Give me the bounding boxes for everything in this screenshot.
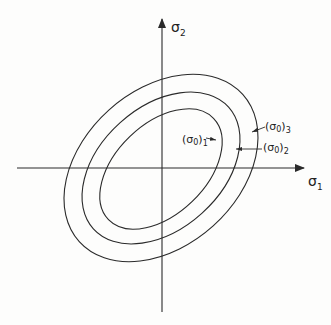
yield-surface-diagram: σ2 σ1 (σ0)1 (σ0)2 (σ0)3	[0, 0, 331, 325]
curve-2-label: (σ0)2	[263, 141, 289, 156]
curve-1-label: (σ0)1	[182, 133, 208, 148]
sigma2-axis-label: σ2	[171, 19, 186, 38]
leader-curve-3	[252, 127, 265, 132]
curve-3-label: (σ0)3	[265, 120, 291, 135]
inner-yield-curve	[77, 86, 245, 252]
sigma1-axis-label: σ1	[308, 173, 323, 192]
diagram-svg: σ2 σ1 (σ0)1 (σ0)2 (σ0)3	[0, 0, 331, 325]
